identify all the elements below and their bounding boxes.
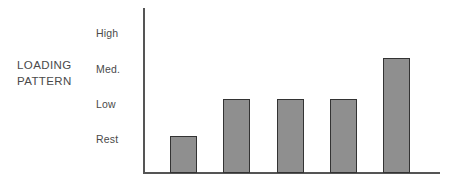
bar-chart: LOADING PATTERN High Med. Low Rest (0, 0, 453, 187)
bar-2 (223, 99, 250, 173)
bar-5 (383, 58, 410, 173)
bar-1 (170, 136, 197, 173)
bar-4 (330, 99, 357, 173)
bar-3 (277, 99, 304, 173)
plot-area (0, 0, 453, 187)
